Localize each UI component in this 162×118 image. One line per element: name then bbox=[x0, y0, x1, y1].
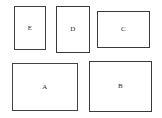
rectangle-e: E bbox=[14, 6, 46, 50]
rectangle-b: B bbox=[89, 61, 152, 112]
rectangle-a: A bbox=[12, 63, 78, 111]
rectangle-d: D bbox=[56, 6, 90, 53]
rectangle-label: E bbox=[28, 25, 32, 32]
rectangle-label: A bbox=[42, 84, 47, 91]
rectangle-packing-diagram: EDCAB bbox=[0, 0, 162, 118]
rectangle-c: C bbox=[97, 11, 150, 48]
rectangle-label: B bbox=[118, 83, 123, 90]
rectangle-label: C bbox=[121, 26, 126, 33]
rectangle-label: D bbox=[70, 26, 75, 33]
